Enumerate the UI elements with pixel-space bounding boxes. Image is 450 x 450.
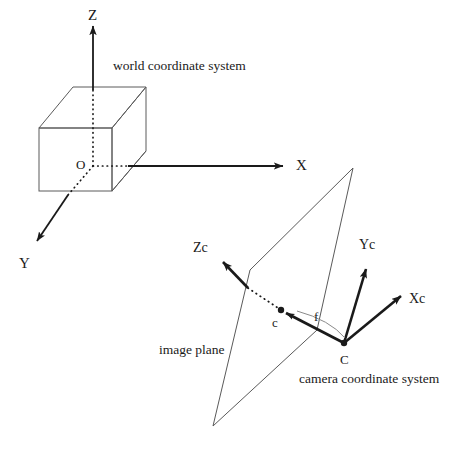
principal-point-label: c <box>272 316 278 329</box>
axis-xc-label: Xc <box>409 292 425 306</box>
cube-top-face <box>39 87 146 128</box>
axis-xc-arrow <box>344 296 401 343</box>
axis-y-arrow <box>37 195 68 241</box>
world-cube <box>39 87 146 191</box>
principal-point-dot <box>278 307 284 313</box>
camera-coordinate-system-caption: camera coordinate system <box>299 372 439 386</box>
camera-axes <box>223 262 401 346</box>
image-plane-quad <box>213 168 353 426</box>
axis-yc-label: Yc <box>359 238 375 252</box>
cube-edge-bottom-right-diag <box>112 151 146 191</box>
image-plane-outline <box>213 168 353 426</box>
world-coordinate-system-caption: world coordinate system <box>113 59 246 73</box>
axis-x-label: X <box>296 158 307 173</box>
image-plane-caption: image plane <box>159 343 225 357</box>
axis-zc-label: Zc <box>193 241 208 255</box>
focal-length-label: f <box>314 310 318 323</box>
camera-center-label: C <box>340 353 349 366</box>
axis-y-label: Y <box>19 256 30 271</box>
world-origin-label: O <box>76 158 85 171</box>
focal-length-arc <box>297 311 345 338</box>
camera-center-dot <box>341 340 347 346</box>
axis-yc-arrow <box>344 269 366 343</box>
axis-zc-dotted-segment <box>248 288 281 310</box>
pinhole-camera-diagram: Z X Y O world coordinate system Zc Yc Xc… <box>0 0 450 450</box>
axis-z-label: Z <box>88 8 97 23</box>
axis-zc-arrow <box>223 262 248 288</box>
cube-right-face <box>112 87 146 191</box>
